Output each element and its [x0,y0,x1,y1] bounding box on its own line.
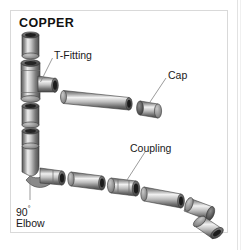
part-t-fitting [21,60,58,103]
label-elbow: 90° Elbow [16,203,45,229]
part-pipe-stub-lower [22,128,39,145]
figure-root: COPPER [0,0,245,250]
label-cap: Cap [168,70,187,81]
part-elbow-90 [22,143,65,188]
part-cap [137,101,162,118]
part-straight-pipe-long [61,91,133,111]
label-coupling: Coupling [130,143,171,154]
part-pipe-stub-top [22,32,39,59]
part-pipe-stub-middle [22,103,39,128]
leader-coupling [127,152,145,180]
label-t-fitting: T-Fitting [54,50,92,61]
degree-symbol: ° [28,205,31,212]
part-coupling [107,178,139,196]
label-elbow-word: Elbow [16,217,45,229]
leader-cap [150,78,166,102]
part-pipe-segment-1 [68,172,106,190]
part-pipe-segment-2 [141,187,185,208]
